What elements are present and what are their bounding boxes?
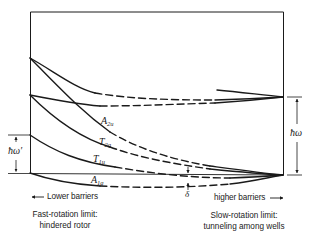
level-subscript: 2u (107, 120, 114, 127)
curve-upper-1-dashed (95, 93, 215, 100)
label-higher-barriers: higher barriers (214, 193, 265, 202)
level-subscript: 1g (97, 179, 104, 186)
label-delta: δ (185, 189, 189, 199)
curve-t2g-final (210, 169, 283, 175)
level-curves (30, 58, 283, 187)
caption-line: Slow-rotation limit: (198, 211, 290, 222)
curve-upper-extra (217, 90, 283, 97)
diagram-canvas (0, 0, 312, 240)
curve-a1g-solid (30, 173, 100, 186)
curve-a1g-dashed (100, 184, 230, 187)
label-a2u: A2u (101, 115, 114, 127)
label-hw: ħω (290, 127, 302, 138)
label-lower-barriers: Lower barriers (47, 192, 98, 201)
level-subscript: 2g (105, 141, 112, 148)
label-t2g: T2g (99, 136, 111, 148)
curve-t2g-dashed (110, 147, 210, 169)
caption-line: hindered rotor (24, 221, 106, 232)
curve-upper-2-dashed (100, 103, 215, 106)
curve-a2u-dashed (110, 132, 210, 166)
curve-a2u-solid (30, 58, 110, 132)
caption-line: Fast-rotation limit: (24, 210, 106, 221)
caption-slow-rotation: Slow-rotation limit: tunneling among wel… (198, 211, 290, 232)
curve-upper-1-solid (30, 58, 95, 93)
ground-level-line (30, 174, 283, 176)
label-a1g: A1g (91, 174, 104, 186)
label-t1u: T1u (93, 153, 105, 165)
label-hw-prime: ħω′ (8, 145, 22, 156)
level-subscript: 1u (99, 158, 106, 165)
caption-line: tunneling among wells (198, 222, 290, 233)
caption-fast-rotation: Fast-rotation limit: hindered rotor (24, 210, 106, 231)
